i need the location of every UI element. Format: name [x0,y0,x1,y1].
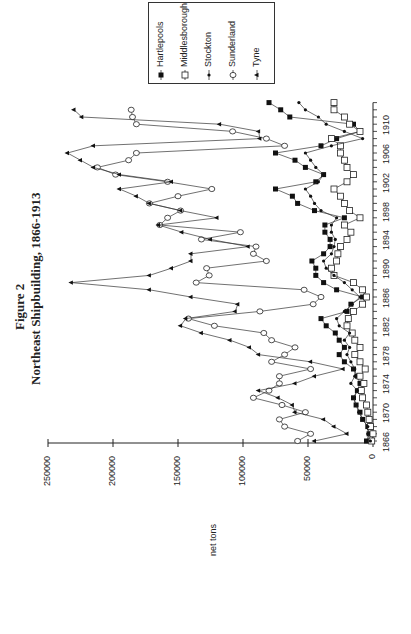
legend-marker-icon [207,73,210,76]
legend-marker-icon [254,73,259,77]
year-tick-label: 1886 [381,288,391,308]
year-tick-label: 1902 [381,173,391,193]
value-tick-label: 0 [367,453,377,458]
legend-item-hartlepools: Hartlepools [155,21,165,67]
legend-marker-icon [230,72,236,77]
plot-area [65,100,377,444]
year-tick-label: 1870 [381,403,391,423]
legend: HartlepoolsMiddlesboroughStocktonSunderl… [148,2,275,84]
figure-label: Figure 2 [12,284,28,330]
year-tick-label: 1890 [381,259,391,279]
year-tick-label: 1866 [381,432,391,452]
year-tick-label: 1898 [381,202,391,222]
legend-marker-icon [182,72,188,78]
value-tick-label: 200000 [107,456,117,486]
chart-title: Northeast Shipbuilding, 1866-1913 [28,192,44,385]
value-tick-label: 150000 [172,456,182,486]
series-sunderland [94,107,324,443]
value-tick-label: 50000 [302,455,312,480]
year-tick-label: 1894 [381,230,391,250]
legend-item-stockton: Stockton [203,32,213,67]
y-axis-label: net tons [208,524,218,556]
year-tick-label: 1874 [381,374,391,394]
year-tick-label: 1906 [381,144,391,164]
value-tick-label: 250000 [42,456,52,486]
legend-item-tyne: Tyne [251,47,261,67]
year-tick-label: 1878 [381,346,391,366]
legend-marker-icon [159,73,164,78]
series-hartlepools [267,100,372,443]
year-tick-label: 1910 [381,115,391,135]
series-middlesborough [328,100,376,444]
chart-canvas [0,0,411,634]
value-tick-label: 100000 [237,456,247,486]
year-tick-label: 1882 [381,317,391,337]
legend-item-middlesborough: Middlesborough [179,3,189,67]
legend-item-sunderland: Sunderland [227,21,237,67]
